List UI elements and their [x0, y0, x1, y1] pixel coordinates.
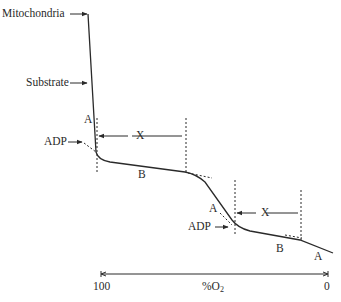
oxygen-trace-curve — [88, 14, 333, 253]
state-a-label-3: A — [314, 251, 322, 263]
state-b-label-1: B — [138, 169, 146, 181]
tangent-dash-1 — [84, 143, 96, 152]
state-b-label-2: B — [276, 243, 284, 255]
axis-title-main: %O — [202, 280, 220, 292]
axis-title: %O2 — [202, 281, 224, 294]
adp-label-1: ADP — [44, 136, 67, 148]
substrate-label: Substrate — [26, 77, 69, 89]
axis-left-value: 100 — [93, 281, 110, 293]
state-a-label-1: A — [84, 114, 92, 126]
interval-x-label-1: X — [136, 130, 144, 142]
tangent-dash-3 — [220, 213, 232, 225]
axis-title-subscript: 2 — [220, 285, 224, 294]
mitochondria-label: Mitochondria — [2, 8, 65, 20]
interval-x-label-2: X — [261, 207, 269, 219]
axis-right-value: 0 — [324, 281, 330, 293]
adp-label-2: ADP — [188, 221, 211, 233]
oxygen-trace-diagram — [0, 0, 341, 302]
state-a-label-2: A — [209, 203, 217, 215]
